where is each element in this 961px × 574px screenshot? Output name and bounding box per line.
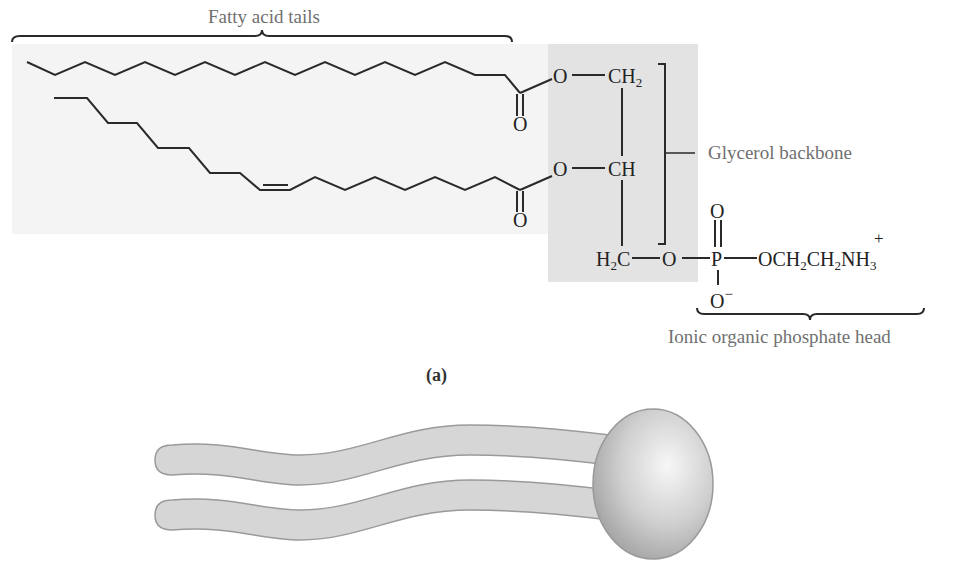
phospholipid-cartoon bbox=[155, 409, 713, 559]
ester-oxygen-bottom: O bbox=[553, 159, 567, 179]
carbonyl-oxygen-bottom: O bbox=[513, 210, 527, 230]
saturated-fatty-acid-chain bbox=[27, 62, 520, 93]
ethanolamine-group: OCH2CH2NH3 bbox=[758, 249, 876, 269]
panel-label-a: (a) bbox=[426, 365, 447, 386]
cartoon-tail-top bbox=[155, 425, 610, 485]
fatty-acid-tails-label: Fatty acid tails bbox=[208, 6, 320, 28]
phosphoryl-oxygen: O bbox=[710, 201, 724, 221]
positive-charge: + bbox=[874, 230, 884, 247]
unsaturated-fatty-acid-chain bbox=[54, 98, 520, 190]
cartoon-polar-head bbox=[593, 409, 713, 559]
phosphate-ester-oxygen: O bbox=[662, 249, 676, 269]
carbonyl-oxygen-top: O bbox=[513, 114, 527, 134]
phosphorus-atom: P bbox=[711, 249, 722, 269]
fatty-acid-tails-brace bbox=[12, 30, 512, 42]
negative-charge: − bbox=[724, 286, 732, 302]
glycerol-ch2-top: CH2 bbox=[608, 66, 642, 86]
molecular-structure-drawing bbox=[0, 0, 961, 574]
glycerol-ch-middle: CH bbox=[608, 159, 636, 179]
glycerol-h2c-bottom: H2C bbox=[596, 249, 630, 269]
glycerol-backbone-label: Glycerol backbone bbox=[708, 142, 852, 164]
phosphate-anion-oxygen: O− bbox=[710, 287, 733, 311]
glycerol-backbone-bracket bbox=[658, 64, 665, 244]
ester-oxygen-top: O bbox=[553, 66, 567, 86]
phosphate-head-label: Ionic organic phosphate head bbox=[668, 326, 891, 348]
cartoon-tail-bottom bbox=[155, 480, 610, 540]
